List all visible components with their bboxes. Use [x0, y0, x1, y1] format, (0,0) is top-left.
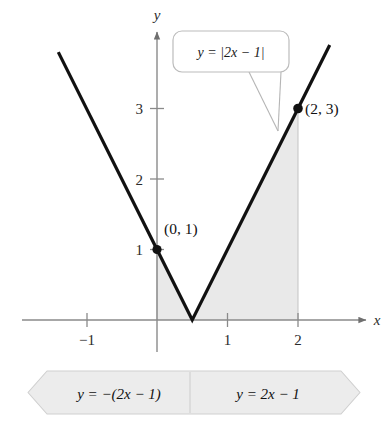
graph-canvas: −1 1 2 1 2 3 x y y = |2x − 1| (0, 1)	[0, 0, 388, 430]
x-tick-label-neg1: −1	[79, 332, 95, 348]
banner-left-label: y = −(2x − 1)	[75, 386, 161, 403]
point-marker-0-1	[152, 245, 161, 254]
y-tick-label-3: 3	[136, 101, 144, 117]
x-tick-label-1: 1	[224, 332, 232, 348]
point-label-2-3: (2, 3)	[305, 100, 339, 118]
y-axis-label: y	[152, 7, 161, 23]
piecewise-banner-group: y = −(2x − 1) y = 2x − 1	[28, 371, 360, 414]
point-marker-2-3	[293, 104, 303, 114]
x-tick-label-2: 2	[294, 332, 302, 348]
callout-leader-line-right	[278, 72, 281, 131]
y-tick-label-2: 2	[136, 172, 144, 188]
banner-right-label: y = 2x − 1	[234, 386, 300, 402]
x-axis-label: x	[373, 312, 381, 328]
absolute-value-graph-figure: −1 1 2 1 2 3 x y y = |2x − 1| (0, 1)	[0, 0, 388, 430]
callout-leader-line-left	[249, 72, 278, 131]
callout-text: y = |2x − 1|	[195, 45, 264, 60]
y-tick-label-1: 1	[136, 242, 144, 258]
point-label-0-1: (0, 1)	[164, 220, 198, 238]
callout-group: y = |2x − 1|	[173, 31, 289, 131]
